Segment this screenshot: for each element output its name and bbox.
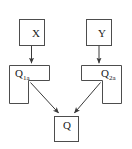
node-q2a-subscript: 2a — [109, 74, 116, 82]
node-q2a-label: Q2a — [101, 68, 116, 82]
node-y-label: Y — [98, 28, 106, 39]
node-q1a-subscript: 1a — [23, 74, 30, 82]
node-q-label: Q — [63, 120, 71, 131]
edge-q2a-to-q — [74, 83, 100, 114]
node-x-label: X — [32, 28, 40, 39]
node-q1a-label: Q1a — [15, 68, 30, 82]
edge-q1a-to-q — [31, 83, 59, 114]
block-flow-diagram: X Y Q1a Q2a Q — [0, 0, 132, 149]
